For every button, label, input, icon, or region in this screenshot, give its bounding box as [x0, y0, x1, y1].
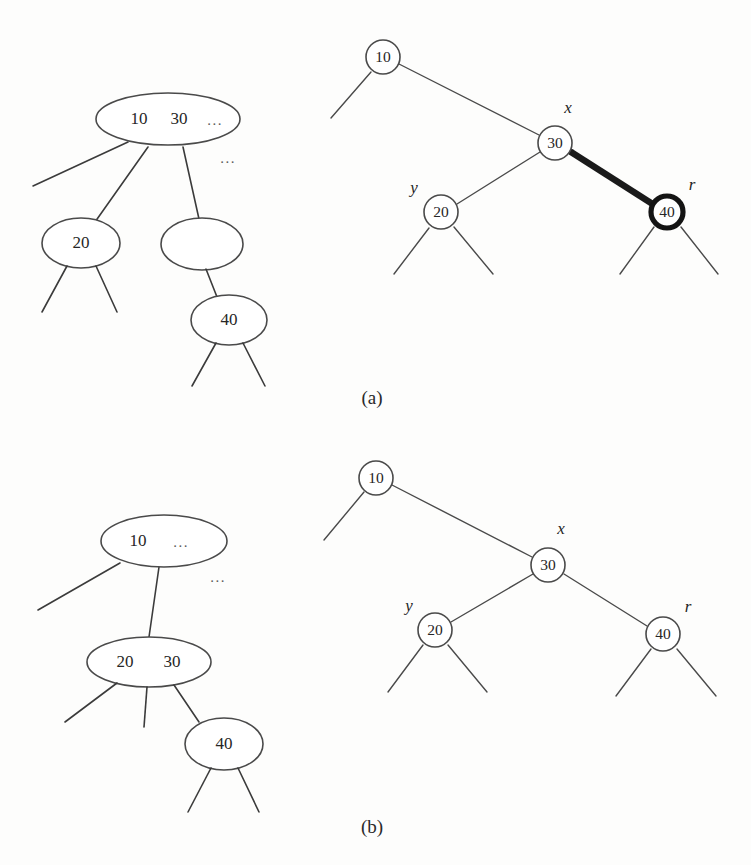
bintree-b-edge-40-stub-left: [616, 649, 651, 696]
btree-b-root-ellipsis: ...: [173, 534, 189, 550]
btree-a-root-ellipsis: ...: [207, 112, 223, 128]
bintree-a-node-10-value: 10: [375, 48, 391, 65]
bintree-b-node-10-value: 10: [368, 469, 384, 486]
btree-a-node-40-stub-right: [243, 343, 265, 386]
bintree-a-edge-40-stub-right: [681, 227, 718, 274]
bintree-b-edge-30-to-20: [451, 574, 533, 622]
bintree-a-edge-20-stub-right: [454, 227, 493, 274]
bintree-a-label-y: y: [408, 178, 418, 197]
bintree-b-label-x: x: [556, 519, 565, 538]
panel-a-bintree: 10 30 x 20 y 40 r: [331, 40, 718, 274]
btree-a-node-40-stub-left: [192, 343, 216, 386]
bintree-a-edge-20-stub-left: [394, 228, 429, 274]
bintree-a-label-r: r: [689, 175, 696, 194]
bintree-b-edge-10-to-30: [392, 485, 532, 557]
bintree-b-node-20-value: 20: [427, 621, 443, 638]
btree-a-root-key-0: 10: [131, 109, 148, 128]
btree-b-side-ellipsis: ...: [210, 569, 226, 585]
btree-b-node-2030[interactable]: [87, 637, 211, 687]
btree-a-node-40-key: 40: [221, 310, 238, 329]
caption-panel-b: (b): [361, 816, 383, 838]
btree-a-side-ellipsis: ...: [220, 150, 236, 166]
panel-b-bintree: 10 30 x 20 y 40 r: [324, 461, 716, 696]
btree-a-node-20-stub-left: [42, 266, 67, 312]
caption-panel-a: (a): [361, 387, 382, 409]
btree-b-edge-to-child: [149, 567, 159, 637]
bintree-a-bold-edge-30-to-40: [571, 152, 651, 203]
bintree-b-node-30-value: 30: [540, 556, 556, 573]
bintree-b-edge-40-stub-right: [677, 649, 716, 696]
btree-a-edge-to-20: [95, 147, 148, 222]
btree-b-node-2030-stub-mid: [144, 687, 147, 727]
btree-b-node-40-key: 40: [216, 734, 233, 753]
bintree-b-label-y: y: [403, 596, 413, 615]
bintree-a-edge-10-to-30: [399, 64, 539, 135]
bintree-b-node-40-value: 40: [655, 625, 671, 642]
bintree-a-edge-10-stub-left: [331, 72, 371, 118]
figure-canvas: 10 30 ... ... 20 40: [0, 0, 751, 865]
btree-b-edge-left-stub: [38, 563, 120, 610]
btree-a-node-20-stub-right: [96, 266, 117, 312]
btree-a-edge-empty-to-40: [206, 269, 217, 297]
bintree-a-edge-30-to-20: [457, 152, 540, 204]
btree-a-edge-left-stub: [33, 142, 128, 186]
btree-b-node-root[interactable]: [101, 515, 227, 567]
bintree-a-node-30-value: 30: [547, 134, 563, 151]
btree-b-node-2030-key-0: 20: [117, 652, 134, 671]
panel-a-btree: 10 30 ... ... 20 40: [33, 93, 267, 386]
bintree-a-node-40-value: 40: [659, 203, 675, 220]
btree-a-node-empty[interactable]: [161, 218, 243, 270]
btree-b-node-2030-stub-left: [65, 683, 117, 722]
bintree-a-edge-40-stub-left: [620, 227, 654, 274]
bintree-b-edge-20-stub-right: [448, 645, 487, 692]
figure-root: 10 30 ... ... 20 40: [0, 0, 751, 865]
bintree-b-edge-20-stub-left: [388, 645, 423, 692]
btree-b-root-key-0: 10: [130, 531, 147, 550]
btree-b-node-40-stub-left: [188, 768, 211, 812]
btree-a-node-20-key: 20: [73, 233, 90, 252]
btree-b-node-2030-key-1: 30: [164, 652, 181, 671]
btree-b-edge-2030-to-40: [174, 685, 199, 722]
bintree-b-edge-10-stub-left: [324, 492, 364, 540]
btree-a-edge-to-empty: [183, 147, 199, 219]
bintree-a-label-x: x: [563, 98, 572, 117]
btree-b-node-40-stub-right: [238, 768, 259, 812]
bintree-a-node-20-value: 20: [433, 203, 449, 220]
bintree-b-edge-30-to-40: [564, 574, 647, 626]
panel-b-btree: 10 ... ... 20 30 40: [38, 515, 263, 812]
bintree-b-label-r: r: [685, 597, 692, 616]
btree-a-root-key-1: 30: [171, 109, 188, 128]
